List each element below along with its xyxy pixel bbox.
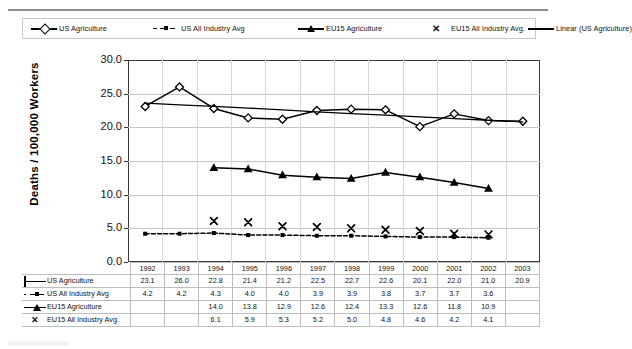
table-cell: 12.4 xyxy=(335,301,369,314)
x-marker-icon: ✕ xyxy=(24,315,46,325)
legend-item-label: US Agriculture xyxy=(57,25,107,32)
table-year-header: 1997 xyxy=(301,263,335,275)
table-cell: 4.8 xyxy=(369,314,403,327)
table-cell: 3.6 xyxy=(471,288,505,301)
table-cell xyxy=(165,301,199,314)
table-cell: 21.0 xyxy=(471,275,505,288)
table-cell: 12.9 xyxy=(267,301,301,314)
table-cell: 5.3 xyxy=(267,314,301,327)
legend-item-label: EU15 All Industry Avg. xyxy=(449,25,525,32)
table-cell: 23.1 xyxy=(131,275,165,288)
table-row: US All Industry Avg4.24.24.34.04.03.93.9… xyxy=(22,288,540,301)
table-row-label: ✕EU15 All Industry Avg. xyxy=(22,314,131,327)
table-cell xyxy=(505,288,539,301)
table-cell: 3.7 xyxy=(403,288,437,301)
table-row: ✕EU15 All Industry Avg. 6.15.95.35.25.04… xyxy=(22,314,540,327)
table-cell: 12.6 xyxy=(403,301,437,314)
legend-item-label: US All Industry Avg xyxy=(179,25,245,32)
table-row: US Agriculture23.126.022.821.421.222.522… xyxy=(22,275,540,288)
plot-area xyxy=(128,60,540,262)
legend-item-0: US Agriculture xyxy=(31,19,107,38)
table-cell: 3.7 xyxy=(437,288,471,301)
table-cell: 13.3 xyxy=(369,301,403,314)
table-cell: 14.0 xyxy=(199,301,233,314)
table-cell: 4.1 xyxy=(471,314,505,327)
table-cell: 22.7 xyxy=(335,275,369,288)
table-row-label: US All Industry Avg xyxy=(22,288,131,301)
table-cell: 21.4 xyxy=(233,275,267,288)
table-cell xyxy=(131,314,165,327)
table-cell: 4.6 xyxy=(403,314,437,327)
table-row-label-text: EU15 Agriculture xyxy=(47,301,102,313)
table-cell: 22.8 xyxy=(199,275,233,288)
table-cell xyxy=(505,301,539,314)
table-header-row: 1992199319941995199619971998199920002001… xyxy=(22,263,540,275)
table-cell: 20.1 xyxy=(403,275,437,288)
table-year-header: 1998 xyxy=(335,263,369,275)
table-row-label: US Agriculture xyxy=(22,275,131,288)
footer-artifact xyxy=(8,341,68,346)
table-year-header: 1993 xyxy=(165,263,199,275)
y-tick-label: 15.0 xyxy=(62,155,122,166)
legend-item-2: EU15 Agriculture xyxy=(298,19,382,38)
table-year-header: 1992 xyxy=(131,263,165,275)
table-cell: 4.0 xyxy=(233,288,267,301)
table-cell: 10.9 xyxy=(471,301,505,314)
table-row-label: EU15 Agriculture xyxy=(22,301,131,314)
table-cell: 4.2 xyxy=(131,288,165,301)
table-year-header: 1995 xyxy=(233,263,267,275)
table-cell: 21.2 xyxy=(267,275,301,288)
table-row-label-text: EU15 All Industry Avg. xyxy=(47,314,119,326)
table-cell: 13.8 xyxy=(233,301,267,314)
table-year-header: 2003 xyxy=(505,263,539,275)
table-year-header: 2001 xyxy=(437,263,471,275)
y-tick-label: 20.0 xyxy=(62,121,122,132)
legend-item-label: Linear (US Agriculture) xyxy=(554,25,632,32)
table-cell: 4.3 xyxy=(199,288,233,301)
table-row-label-text: US All Industry Avg xyxy=(47,288,109,300)
legend-item-label: EU15 Agriculture xyxy=(324,25,382,32)
legend-item-4: Linear (US Agriculture) xyxy=(528,19,632,38)
table-cell: 4.0 xyxy=(267,288,301,301)
top-divider xyxy=(8,9,548,11)
series-canvas xyxy=(128,60,540,262)
table-year-header: 2002 xyxy=(471,263,505,275)
diamond-marker-icon xyxy=(31,23,57,34)
dashed-square-marker-icon xyxy=(24,289,46,299)
data-table: 1992199319941995199619971998199920002001… xyxy=(22,262,540,327)
table-year-header: 2000 xyxy=(403,263,437,275)
legend-item-1: US All Industry Avg xyxy=(153,19,245,38)
table-cell: 11.8 xyxy=(437,301,471,314)
series-0 xyxy=(141,83,527,131)
table-cell: 4.2 xyxy=(165,288,199,301)
table-cell: 6.1 xyxy=(199,314,233,327)
dashed-square-marker-icon xyxy=(153,23,179,34)
table-cell: 22.6 xyxy=(369,275,403,288)
table-cell: 5.9 xyxy=(233,314,267,327)
table-row: EU15 Agriculture 14.013.812.912.612.413.… xyxy=(22,301,540,314)
series-4 xyxy=(145,103,523,122)
table-cell xyxy=(505,314,539,327)
y-tick-label: 30.0 xyxy=(62,54,122,65)
series-2 xyxy=(209,163,492,192)
table-cell: 4.2 xyxy=(437,314,471,327)
table-cell: 22.5 xyxy=(301,275,335,288)
table-year-header: 1994 xyxy=(199,263,233,275)
y-tick-label: 10.0 xyxy=(62,189,122,200)
table-cell: 3.9 xyxy=(335,288,369,301)
legend-item-3: ✕EU15 All Industry Avg. xyxy=(423,19,525,38)
chart-legend: US AgricultureUS All Industry AvgEU15 Ag… xyxy=(22,18,536,39)
triangle-marker-icon xyxy=(298,23,324,34)
table-cell: 3.9 xyxy=(301,288,335,301)
x-marker-icon: ✕ xyxy=(423,24,449,34)
table-cell: 5.2 xyxy=(301,314,335,327)
line-swatch-icon xyxy=(528,23,554,34)
table-cell: 20.9 xyxy=(505,275,539,288)
table-cell: 5.0 xyxy=(335,314,369,327)
y-axis-title: Deaths / 100,000 Workers xyxy=(28,34,40,234)
table-cell: 22.0 xyxy=(437,275,471,288)
table-year-header: 1999 xyxy=(369,263,403,275)
triangle-marker-icon xyxy=(24,302,46,312)
table-cell xyxy=(165,314,199,327)
